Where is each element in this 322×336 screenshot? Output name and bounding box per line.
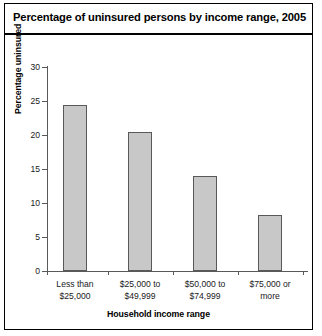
bar-50000-to-74999 [193,176,217,271]
y-tick-label: 20 [30,130,40,140]
title-divider [5,33,312,35]
x-tick [47,271,48,275]
y-tick-label: 5 [35,232,40,242]
y-tick-label: 0 [35,266,40,276]
y-axis-line [47,66,48,272]
x-axis-category-label: $75,000 or more [228,279,312,302]
x-tick [238,271,239,275]
x-axis-line [47,271,308,272]
x-label-line: more [228,291,312,303]
y-axis-title: Percentage uninsured [13,24,23,114]
bar-75000-or-more [258,215,282,271]
x-axis-title: Household income range [5,309,312,319]
x-tick [173,271,174,275]
chart-card: Percentage of uninsured persons by incom… [4,3,313,330]
y-tick-label: 25 [30,96,40,106]
y-tick-label: 30 [30,62,40,72]
bar-25000-to-49999 [128,132,152,271]
page-title: Percentage of uninsured persons by incom… [13,11,307,23]
y-tick-label: 15 [30,164,40,174]
bar-less-than-25000 [63,105,87,271]
x-tick [303,271,304,275]
plot-area: 0 5 10 15 20 25 30 [47,67,307,271]
x-label-line: $75,000 or [228,279,312,291]
x-tick [108,271,109,275]
y-tick-label: 10 [30,198,40,208]
